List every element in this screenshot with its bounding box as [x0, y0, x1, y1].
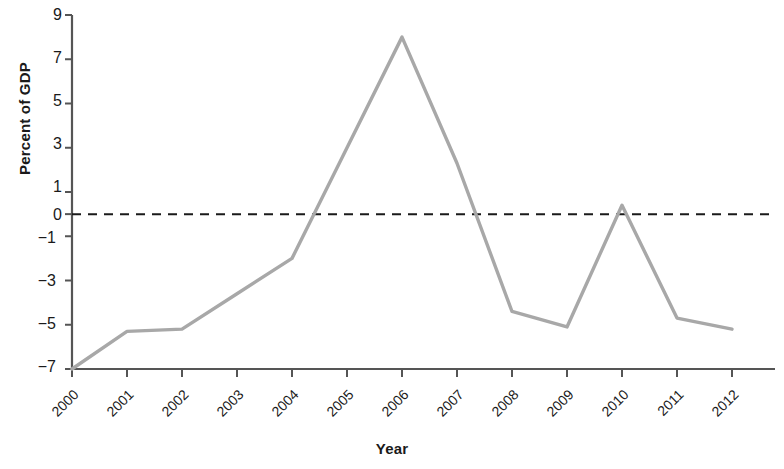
chart-figure: Percent of GDP Year 9 7 5 3 1 0 −1 −3 −5… [0, 0, 784, 469]
plot-area [0, 0, 784, 469]
x-axis-ticks [72, 369, 732, 377]
axis-lines [72, 15, 775, 369]
data-series-line [72, 37, 732, 369]
